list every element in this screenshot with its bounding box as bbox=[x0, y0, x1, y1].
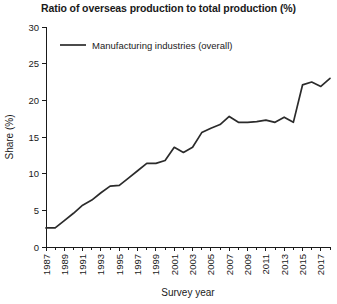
x-axis-tick-label: 2007 bbox=[224, 254, 235, 275]
y-axis-tick-label: 0 bbox=[34, 242, 39, 253]
y-axis-tick-label: 15 bbox=[28, 132, 39, 143]
chart-plot-area: 051015202530Share (%)1987198919911993199… bbox=[0, 0, 337, 304]
x-axis-tick-label: 2011 bbox=[260, 254, 271, 274]
y-axis-tick-label: 30 bbox=[28, 22, 39, 33]
x-axis-title: Survey year bbox=[161, 287, 215, 298]
x-axis-tick-label: 1993 bbox=[95, 254, 106, 275]
x-axis-tick-label: 2001 bbox=[169, 254, 180, 275]
chart-container: Ratio of overseas production to total pr… bbox=[0, 0, 337, 304]
x-axis-tick-label: 2003 bbox=[187, 254, 198, 275]
x-axis-tick-label: 2009 bbox=[242, 254, 253, 275]
x-axis-tick-label: 2005 bbox=[205, 254, 216, 275]
x-axis-tick-label: 1991 bbox=[77, 254, 88, 275]
y-axis-tick-label: 10 bbox=[28, 168, 39, 179]
x-axis-tick-label: 1999 bbox=[150, 254, 161, 275]
data-series-line bbox=[46, 78, 330, 228]
axis-lines bbox=[46, 27, 330, 247]
y-axis-tick-label: 25 bbox=[28, 58, 39, 69]
y-axis-tick-label: 5 bbox=[34, 205, 39, 216]
x-axis-tick-label: 1995 bbox=[114, 254, 125, 275]
legend-label: Manufacturing industries (overall) bbox=[92, 40, 232, 51]
x-axis-tick-label: 1989 bbox=[59, 254, 70, 275]
x-axis-tick-label: 1987 bbox=[41, 254, 52, 275]
x-axis-tick-label: 2013 bbox=[279, 254, 290, 275]
x-axis-tick-label: 1997 bbox=[132, 254, 143, 275]
y-axis-tick-label: 20 bbox=[28, 95, 39, 106]
y-axis-title: Share (%) bbox=[4, 114, 15, 159]
x-axis-tick-label: 2015 bbox=[297, 254, 308, 275]
x-axis-tick-label: 2017 bbox=[315, 254, 326, 275]
